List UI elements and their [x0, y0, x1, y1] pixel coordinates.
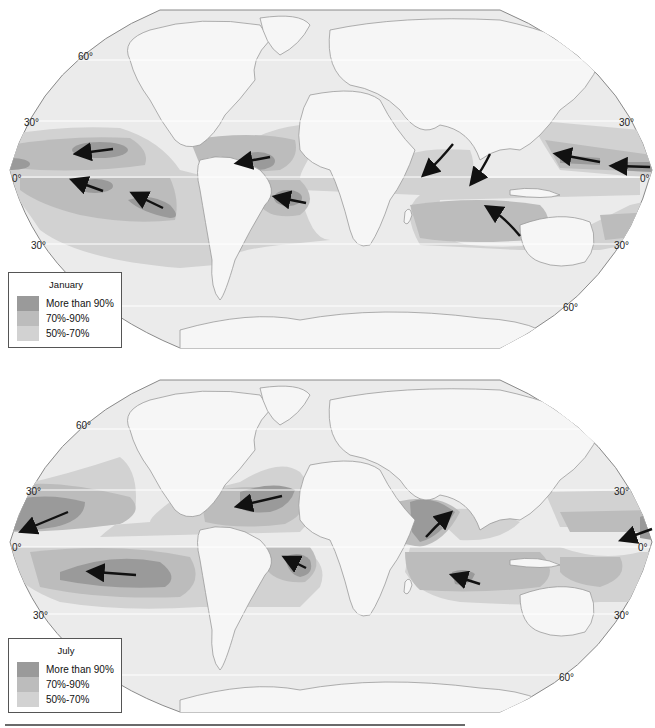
latitude-label: 60° [559, 672, 574, 683]
latitude-label: 30° [33, 610, 48, 621]
legend-swatch-50-70 [17, 326, 39, 341]
latitude-label: 0° [12, 173, 22, 184]
legend-title: July [17, 645, 115, 656]
legend-item: More than 90% [17, 296, 115, 311]
latitude-label: 30° [24, 117, 39, 128]
latitude-label: 0° [12, 542, 22, 553]
july-legend: July More than 90% 70%-90% 50%-70% [8, 638, 122, 713]
legend-label: 50%-70% [46, 694, 89, 705]
legend-swatch-90-plus [17, 296, 39, 311]
latitude-label: 30° [31, 240, 46, 251]
latitude-label: 0° [640, 173, 650, 184]
latitude-label: 30° [614, 240, 629, 251]
legend-label: 50%-70% [46, 328, 89, 339]
legend-swatch-70-90 [17, 311, 39, 326]
legend-item: More than 90% [17, 662, 115, 677]
latitude-label: 30° [614, 610, 629, 621]
latitude-label: 0° [638, 542, 648, 553]
legend-swatch-70-90 [17, 677, 39, 692]
legend-item: 70%-90% [17, 311, 115, 326]
arrow-icon [618, 166, 650, 167]
january-map-panel: 60° 30° 0° 30° 30° 0° 30° 60° January Mo… [0, 0, 655, 352]
legend-label: 70%-90% [46, 679, 89, 690]
legend-label: More than 90% [46, 298, 114, 309]
legend-item: 70%-90% [17, 677, 115, 692]
latitude-label: 60° [76, 420, 91, 431]
latitude-label: 30° [619, 117, 634, 128]
legend-label: More than 90% [46, 664, 114, 675]
legend-swatch-50-70 [17, 692, 39, 707]
legend-swatch-90-plus [17, 662, 39, 677]
latitude-label: 30° [26, 486, 41, 497]
latitude-label: 60° [78, 51, 93, 62]
legend-title: January [17, 279, 115, 290]
january-legend: January More than 90% 70%-90% 50%-70% [8, 272, 122, 348]
bottom-divider [5, 724, 465, 726]
legend-item: 50%-70% [17, 692, 115, 707]
july-map-panel: 60° 30° 0° 30° 30° 0° 30° 60° July More … [0, 362, 655, 714]
latitude-label: 60° [563, 302, 578, 313]
legend-item: 50%-70% [17, 326, 115, 341]
legend-label: 70%-90% [46, 313, 89, 324]
latitude-label: 30° [614, 486, 629, 497]
